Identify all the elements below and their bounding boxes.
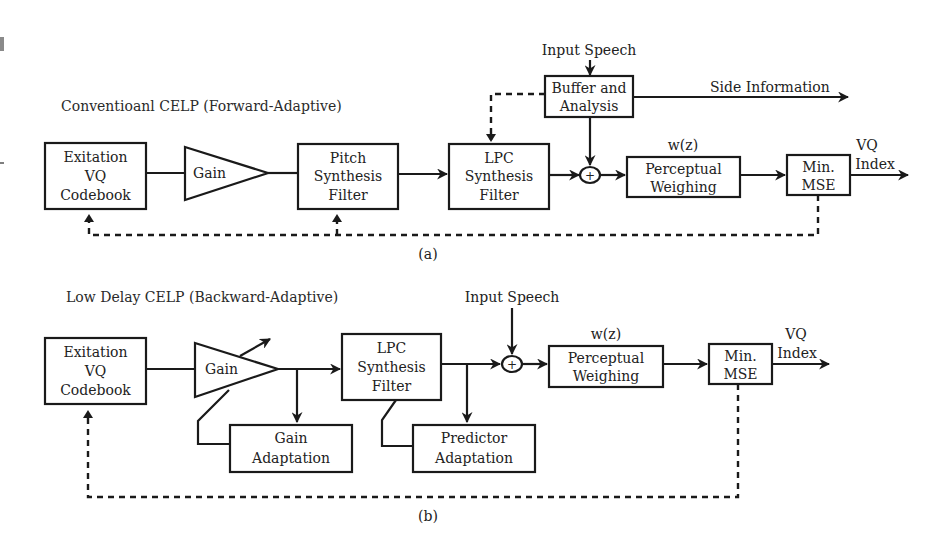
block-a-buffer-analysis: Buffer and Analysis <box>545 76 633 117</box>
block-a-perceptual-weighing: Perceptual Weighing <box>627 157 740 197</box>
diagram-b: Low Delay CELP (Backward-Adaptive) Exita… <box>45 289 829 524</box>
block-label: Buffer and <box>551 80 626 96</box>
wz-label: w(z) <box>591 326 621 342</box>
adaptive-arrow <box>240 339 270 356</box>
input-speech-label: Input Speech <box>465 289 560 305</box>
block-a-gain: Gain <box>185 147 268 200</box>
vq-index-label: Index <box>855 156 895 172</box>
block-label: Perceptual <box>645 161 722 177</box>
block-label: Perceptual <box>568 350 645 366</box>
caption-b: (b) <box>418 508 438 524</box>
block-b-lpc-filter: LPC Synthesis Filter <box>342 334 441 400</box>
block-label: Synthesis <box>465 168 533 184</box>
svg-text:+: + <box>507 358 517 372</box>
side-information-label: Side Information <box>710 79 830 95</box>
block-label: Adaptation <box>251 450 330 466</box>
block-label: Synthesis <box>314 168 382 184</box>
block-b-perceptual-weighing: Perceptual Weighing <box>549 346 663 387</box>
dashed-control-line <box>491 94 545 140</box>
block-b-gain: Gain <box>195 339 278 397</box>
block-label: Exitation <box>63 344 127 360</box>
sum-node-b: + <box>502 356 522 372</box>
block-b-codebook: Exitation VQ Codebook <box>45 338 146 404</box>
block-label: Gain <box>205 361 238 377</box>
arrow-head <box>486 134 496 142</box>
block-label: Adaptation <box>434 450 513 466</box>
block-label: Weighing <box>650 179 716 195</box>
block-label: Filter <box>479 187 519 203</box>
block-label: VQ <box>84 363 107 379</box>
block-label: LPC <box>377 340 406 356</box>
input-speech-label: Input Speech <box>542 42 637 58</box>
block-label: MSE <box>723 366 757 382</box>
svg-text:+: + <box>585 169 595 183</box>
block-label: Analysis <box>559 98 619 114</box>
block-b-gain-adaptation: Gain Adaptation <box>230 425 352 472</box>
block-a-min-mse: Min. MSE <box>787 155 850 195</box>
arrow-head <box>84 214 94 222</box>
block-a-pitch-filter: Pitch Synthesis Filter <box>298 144 398 209</box>
block-label: Filter <box>328 187 368 203</box>
block-label: Codebook <box>60 382 131 398</box>
block-label: Gain <box>193 165 226 181</box>
block-label: Min. <box>802 159 834 175</box>
block-label: Predictor <box>441 430 508 446</box>
sum-node-a: + <box>580 167 600 183</box>
diagram-b-title: Low Delay CELP (Backward-Adaptive) <box>66 289 338 305</box>
block-b-min-mse: Min. MSE <box>709 344 772 384</box>
block-label: Synthesis <box>357 359 425 375</box>
diagram-a: Conventioanl CELP (Forward-Adaptive) Exi… <box>45 42 908 262</box>
block-label: Exitation <box>63 149 127 165</box>
block-label: Gain <box>274 430 307 446</box>
vq-index-label: VQ <box>855 137 878 153</box>
page-edge-mark <box>0 37 4 51</box>
block-label: Filter <box>372 378 412 394</box>
caption-a: (a) <box>418 246 437 262</box>
diagram-a-title: Conventioanl CELP (Forward-Adaptive) <box>61 98 342 114</box>
vq-index-label: VQ <box>784 326 807 342</box>
block-label: Weighing <box>573 368 639 384</box>
arrow-head <box>332 214 342 222</box>
block-label: MSE <box>801 177 835 193</box>
predictor-feedback-line <box>382 400 413 446</box>
vq-index-label: Index <box>777 345 817 361</box>
block-label: Pitch <box>330 150 366 166</box>
block-label: LPC <box>484 150 513 166</box>
block-label: VQ <box>84 168 107 184</box>
celp-block-diagram: Conventioanl CELP (Forward-Adaptive) Exi… <box>0 0 948 554</box>
block-a-lpc-filter: LPC Synthesis Filter <box>449 144 549 209</box>
arrow-head <box>83 410 93 418</box>
block-b-predictor-adaptation: Predictor Adaptation <box>413 425 535 472</box>
block-a-codebook: Exitation VQ Codebook <box>45 143 146 209</box>
block-label: Min. <box>724 348 756 364</box>
block-label: Codebook <box>60 187 131 203</box>
gain-feedback-line <box>198 390 230 444</box>
wz-label: w(z) <box>668 137 698 153</box>
